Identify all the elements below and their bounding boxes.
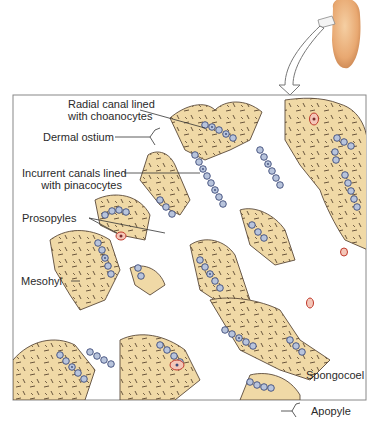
label-incurrent-line1: Incurrent canals lined [22,167,122,179]
label-apopyle: Apopyle [311,405,351,417]
label-incurrent-canals: Incurrent canals lined with pinacocytes [22,167,122,191]
label-spongocoel: Spongocoel [306,369,364,381]
label-mesohyl: Mesohyl [21,275,62,287]
whole-sponge-illustration [318,0,361,68]
zoom-arrow [279,26,324,95]
sponge-diagram: Radial canal lined with choanocytes Derm… [0,0,377,437]
label-dermal-ostium: Dermal ostium [43,131,114,143]
label-prosopyles: Prosopyles [22,212,76,224]
label-radial-canal-line1: Radial canal lined [68,98,138,110]
label-incurrent-line2: with pinacocytes [22,179,122,191]
label-radial-canal: Radial canal lined with choanocytes [68,98,138,122]
label-radial-canal-line2: with choanocytes [68,110,138,122]
